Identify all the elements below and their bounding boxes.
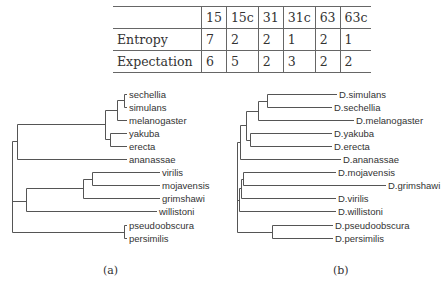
caption-a: (a) — [103, 264, 118, 277]
leaf-label: yakuba — [129, 128, 160, 139]
leaf-label: D.simulans — [339, 89, 386, 100]
leaf-label: D.persimilis — [335, 233, 384, 244]
leaf-label: D.mojavensis — [338, 167, 395, 178]
leaf-label: D.virilis — [338, 193, 369, 204]
leaf-label: D.pseudoobscura — [335, 220, 410, 231]
phylogenetic-trees: sechellia simulans melanogaster yakuba e… — [0, 0, 446, 286]
leaf-label: D.ananassae — [343, 154, 399, 165]
leaf-label: erecta — [129, 141, 156, 152]
leaf-label: simulans — [129, 102, 167, 113]
leaf-label: D.willistoni — [338, 206, 383, 217]
leaf-label: pseudoobscura — [129, 220, 195, 231]
tree-a-leaves: sechellia simulans melanogaster yakuba e… — [129, 89, 210, 244]
leaf-label: grimshawi — [162, 193, 205, 204]
leaf-label: D.melanogaster — [356, 115, 423, 126]
leaf-label: melanogaster — [129, 115, 187, 126]
leaf-label: D.yakuba — [334, 128, 375, 139]
leaf-label: virilis — [162, 167, 183, 178]
leaf-label: D.sechellia — [334, 102, 381, 113]
leaf-label: ananassae — [129, 154, 175, 165]
leaf-label: willistoni — [158, 206, 194, 217]
leaf-label: sechellia — [129, 89, 167, 100]
caption-b: (b) — [333, 264, 349, 277]
leaf-label: mojavensis — [162, 180, 210, 191]
tree-b-leaves: D.simulans D.sechellia D.melanogaster D.… — [334, 89, 440, 244]
leaf-label: persimilis — [129, 233, 169, 244]
leaf-label: D.grimshawi — [388, 180, 440, 191]
leaf-label: D.erecta — [334, 141, 371, 152]
